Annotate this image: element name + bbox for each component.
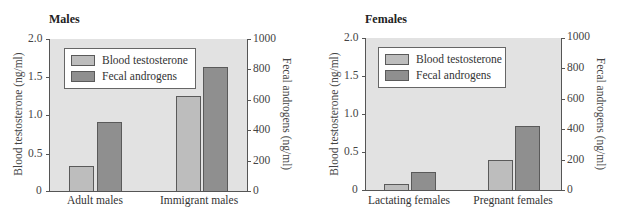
legend-swatch-blood (385, 54, 409, 65)
category-label: Pregnant females (473, 194, 553, 206)
legend-label: Fecal androgens (416, 69, 491, 81)
category-label: Lactating females (368, 194, 450, 206)
left-tick-label: 1.5 (344, 70, 358, 82)
left-axis-title: Blood testosterone (ng/ml) (329, 52, 341, 175)
right-tick-label: 400 (567, 123, 584, 135)
panel-title: Females (365, 12, 407, 27)
left-tick-label: 0 (352, 184, 358, 196)
legend-swatch-fecal (385, 70, 409, 81)
right-axis-title: Fecal androgens (ng/ml) (594, 58, 606, 170)
right-tick-label: 200 (567, 154, 584, 166)
bar-blood-lactating-females (384, 184, 409, 190)
legend-item-blood: Blood testosterone (385, 53, 502, 65)
right-tick (561, 129, 565, 130)
right-tick (561, 38, 565, 39)
legend-item-fecal: Fecal androgens (385, 69, 491, 81)
right-tick (561, 160, 565, 161)
left-tick-label: 2.0 (344, 32, 358, 44)
right-tick-label: 600 (567, 93, 584, 105)
right-tick (561, 190, 565, 191)
bar-blood-pregnant-females (488, 160, 513, 190)
left-tick-label: 1.0 (344, 108, 358, 120)
right-tick (561, 99, 565, 100)
right-tick-label: 0 (567, 184, 573, 196)
bar-fecal-pregnant-females (515, 126, 540, 190)
left-tick-label: 0.5 (344, 146, 358, 158)
females-panel: Females Blood testosterone (ng/ml) 2.0 1… (0, 0, 625, 221)
bar-fecal-lactating-females (411, 172, 436, 190)
legend: Blood testosterone Fecal androgens (378, 47, 506, 88)
right-tick (561, 68, 565, 69)
right-tick-label: 800 (567, 62, 584, 74)
right-tick-label: 1000 (567, 31, 590, 43)
legend-label: Blood testosterone (416, 53, 502, 65)
